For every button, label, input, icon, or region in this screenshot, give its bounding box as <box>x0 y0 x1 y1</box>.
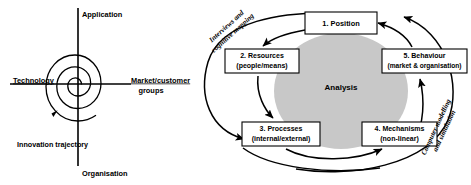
box-position: 1. Position <box>305 12 377 34</box>
box-position-line1: 1. Position <box>322 19 360 28</box>
box-mechanisms-line1: 4. Mechanisms <box>375 125 425 132</box>
box-processes-line1: 3. Processes <box>260 125 303 132</box>
box-mechanisms-line2: (non-linear) <box>380 135 419 143</box>
annotation-innovation-trajectory: Innovation trajectory <box>17 140 88 149</box>
analysis-label: Analysis <box>325 83 358 92</box>
box-resources: 2. Resources (people/means) <box>225 49 299 73</box>
innovation-spiral <box>46 55 101 121</box>
axis-label-market-line2: groups <box>138 86 163 95</box>
axis-label-market-line1: Market/customer <box>131 76 190 85</box>
figure-svg: Application Technology Market/customer g… <box>0 0 471 185</box>
axis-label-technology: Technology <box>13 76 55 85</box>
box-behaviour-line1: 5. Behaviour <box>403 52 445 59</box>
curve-label-interviews: Interviews and cognitive mapping <box>204 5 256 54</box>
box-resources-line1: 2. Resources <box>240 52 284 59</box>
box-processes: 3. Processes (internal/external) <box>242 122 320 146</box>
axis-label-organisation: Organisation <box>82 169 128 178</box>
arrow-behaviour-to-position <box>378 23 412 47</box>
box-behaviour-line2: (market & organisation) <box>387 62 461 70</box>
arrow-position-to-resources <box>263 30 305 46</box>
outer-loop-bottom <box>243 148 380 171</box>
arrow-processes-to-mechanisms <box>286 149 382 159</box>
axis-label-application: Application <box>82 10 123 19</box>
box-resources-line2: (people/means) <box>236 62 287 70</box>
right-diagram: 1. Position 2. Resources (people/means) … <box>204 5 467 172</box>
spiral-arrow-head <box>52 110 58 117</box>
left-diagram: Application Technology Market/customer g… <box>10 8 190 178</box>
box-behaviour: 5. Behaviour (market & organisation) <box>382 49 467 73</box>
box-processes-line2: (internal/external) <box>252 135 311 143</box>
figure-root: Application Technology Market/customer g… <box>0 0 471 185</box>
arrow-resources-to-processes <box>258 76 273 118</box>
